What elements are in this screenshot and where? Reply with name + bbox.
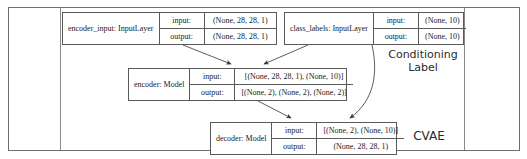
node-encoder-row-input: input: [(None, 28, 28, 1), (None, 10)]: [190, 69, 352, 85]
io-value: [(None, 2), (None, 10)]: [317, 123, 404, 138]
io-value: (None, 28, 28, 1): [205, 29, 276, 44]
io-value: (None, 28, 28, 1): [205, 13, 276, 28]
io-key: input:: [160, 13, 205, 28]
node-encoder-io: input: [(None, 28, 28, 1), (None, 10)] o…: [190, 69, 352, 100]
io-key: output:: [160, 29, 205, 44]
io-key: input:: [272, 123, 317, 138]
node-decoder-title: decoder: Model: [211, 123, 272, 154]
io-value: (None, 10): [419, 13, 466, 28]
frame-divider-left: [60, 8, 61, 150]
io-value: (None, 28, 28, 1): [317, 139, 404, 154]
node-class-labels[interactable]: class_labels: InputLayer input: (None, 1…: [284, 12, 464, 45]
node-class-labels-io: input: (None, 10) output: (None, 10): [374, 13, 466, 44]
node-encoder-row-output: output: [(None, 2), (None, 2), (None, 2)…: [190, 85, 352, 100]
node-encoder-input-io: input: (None, 28, 28, 1) output: (None, …: [160, 13, 276, 44]
annotation-cvae: CVAE: [398, 130, 460, 144]
io-value: (None, 10): [419, 29, 466, 44]
io-value: [(None, 2), (None, 2), (None, 2)]: [235, 85, 352, 100]
node-encoder-input-title: encoder_input: InputLayer: [63, 13, 160, 44]
node-class-labels-title: class_labels: InputLayer: [285, 13, 374, 44]
node-encoder-input[interactable]: encoder_input: InputLayer input: (None, …: [62, 12, 277, 45]
node-encoder-input-row-input: input: (None, 28, 28, 1): [160, 13, 276, 29]
node-class-labels-row-output: output: (None, 10): [374, 29, 466, 44]
annotation-conditioning-label: Conditioning Label: [384, 49, 462, 74]
io-key: output:: [272, 139, 317, 154]
diagram-canvas: encoder_input: InputLayer input: (None, …: [0, 0, 527, 159]
node-decoder-row-output: output: (None, 28, 28, 1): [272, 139, 404, 154]
node-decoder-row-input: input: [(None, 2), (None, 10)]: [272, 123, 404, 139]
io-key: output:: [374, 29, 419, 44]
node-decoder[interactable]: decoder: Model input: [(None, 2), (None,…: [210, 122, 397, 155]
io-key: output:: [190, 85, 235, 100]
node-class-labels-row-input: input: (None, 10): [374, 13, 466, 29]
io-value: [(None, 28, 28, 1), (None, 10)]: [235, 69, 352, 84]
node-decoder-io: input: [(None, 2), (None, 10)] output: (…: [272, 123, 404, 154]
io-key: input:: [190, 69, 235, 84]
node-encoder-title: encoder: Model: [129, 69, 190, 100]
node-encoder[interactable]: encoder: Model input: [(None, 28, 28, 1)…: [128, 68, 347, 101]
node-encoder-input-row-output: output: (None, 28, 28, 1): [160, 29, 276, 44]
io-key: input:: [374, 13, 419, 28]
